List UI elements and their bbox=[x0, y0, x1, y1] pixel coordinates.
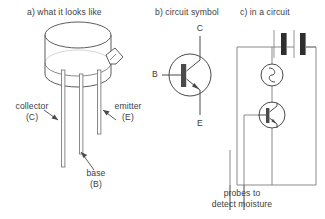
circuit-wires bbox=[230, 47, 316, 210]
label-emitter: emitter bbox=[104, 101, 152, 111]
transistor-can-illustration bbox=[45, 22, 123, 87]
caption-probes-line1: probes to bbox=[197, 188, 287, 198]
lead-emitter bbox=[98, 70, 101, 134]
lead-base bbox=[80, 74, 83, 154]
buzzer-symbol bbox=[261, 64, 283, 86]
npn-symbol bbox=[162, 36, 211, 115]
battery-symbol bbox=[272, 30, 316, 58]
label-base: base bbox=[76, 168, 116, 178]
label-emitter-letter: (E) bbox=[104, 112, 152, 122]
label-base-letter: (B) bbox=[76, 179, 116, 189]
label-symbol-base: B bbox=[148, 69, 162, 79]
label-symbol-emitter: E bbox=[193, 118, 207, 128]
caption-probes-line2: detect moisture bbox=[181, 199, 303, 209]
lead-collector bbox=[62, 70, 65, 167]
label-collector: collector bbox=[6, 101, 58, 111]
figure-transistor-overview: a) what it looks like b) circuit symbol … bbox=[0, 0, 325, 219]
circuit-npn-symbol bbox=[258, 102, 285, 128]
label-symbol-collector: C bbox=[193, 23, 207, 33]
label-collector-letter: (C) bbox=[6, 112, 58, 122]
